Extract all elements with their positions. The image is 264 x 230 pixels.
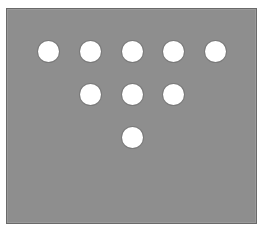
white-dot-row1-2 [80,41,101,62]
figure [0,0,264,230]
white-dot-row1-5 [205,41,226,62]
white-dot-row1-3 [122,41,143,62]
white-dot-row1-1 [38,41,59,62]
white-dot-row2-2 [122,84,143,105]
white-dot-row1-4 [163,41,184,62]
white-dot-row3-1 [122,127,143,148]
white-dot-row2-3 [163,84,184,105]
white-dot-row2-1 [80,84,101,105]
